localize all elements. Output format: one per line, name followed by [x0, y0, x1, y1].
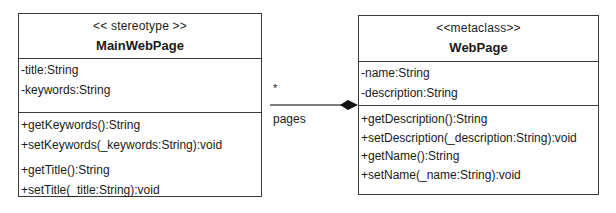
attributes-section: -title:String -keywords:String: [19, 59, 261, 113]
operation: +getName():String: [361, 147, 598, 165]
composition-diamond-icon: [340, 100, 358, 110]
operation: +setName(_name:String):void: [361, 165, 598, 185]
multiplicity-label: *: [273, 82, 277, 94]
operation: +getTitle():String: [21, 160, 261, 180]
class-name: MainWebPage: [19, 36, 261, 58]
class-name: WebPage: [359, 38, 598, 60]
attribute: -keywords:String: [21, 80, 261, 100]
attribute: -name:String: [361, 63, 598, 83]
class-header: <<metaclass>> WebPage: [359, 16, 598, 62]
class-main-web-page[interactable]: << stereotype >> MainWebPage -title:Stri…: [18, 13, 262, 197]
operations-section: +getDescription():String +setDescription…: [359, 106, 598, 185]
operations-section: +getKeywords():String +setKeywords(_keyw…: [19, 113, 261, 200]
role-label: pages: [273, 112, 306, 126]
attribute: -title:String: [21, 60, 261, 80]
operation: +getKeywords():String: [21, 115, 261, 135]
attributes-section: -name:String -description:String: [359, 62, 598, 106]
operation: +getDescription():String: [361, 109, 598, 129]
operation: +setTitle(_title:String):void: [21, 180, 261, 200]
stereotype-label: << stereotype >>: [19, 14, 261, 36]
attribute: -description:String: [361, 83, 598, 103]
operation: +setKeywords(_keywords:String):void: [21, 135, 261, 155]
class-web-page[interactable]: <<metaclass>> WebPage -name:String -desc…: [358, 15, 599, 195]
stereotype-label: <<metaclass>>: [359, 16, 598, 38]
operation: +setDescription(_description:String):voi…: [361, 129, 598, 147]
class-header: << stereotype >> MainWebPage: [19, 14, 261, 59]
